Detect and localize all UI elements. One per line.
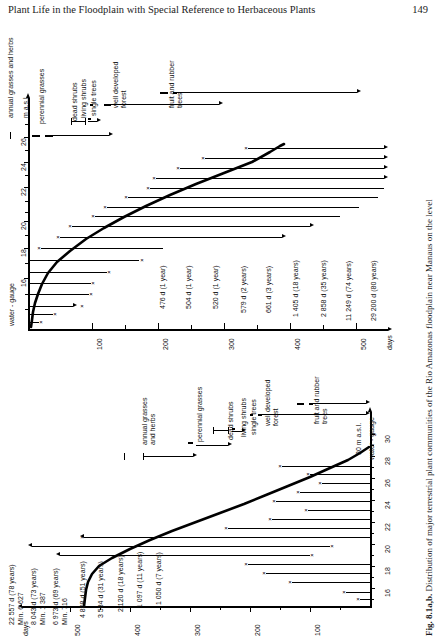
annotation-b-9: 1 097 d (11 years) xyxy=(136,552,143,608)
page-number: 149 xyxy=(412,4,428,15)
annotation-b-8: 2 120 d (18 years) xyxy=(117,555,124,612)
chart-panel-b: annual grasses and herbs perennial grass… xyxy=(0,350,410,641)
figure-caption-number: Fig. 8.1a,b. xyxy=(424,594,434,636)
annotation-b-2: 8 043 d (73 years) xyxy=(30,568,37,625)
annotation-a-8: 29 200 d (80 years) xyxy=(370,260,377,321)
running-head: Plant Life in the Floodplain with Specia… xyxy=(8,4,428,15)
annotation-b-4: 6 973 d (69 years) xyxy=(52,568,59,625)
annotation-b-0: 22 557 d (78 years) xyxy=(8,564,15,625)
annotation-b-1: Min. 6 627 xyxy=(17,592,24,625)
figure-caption-text: Distribution of major terrestrial plant … xyxy=(424,199,434,591)
figure-caption: Fig. 8.1a,b. Distribution of major terre… xyxy=(424,199,434,636)
annotation-b-5: Min. 716 xyxy=(61,598,68,625)
duration-curve-a xyxy=(0,26,400,346)
running-head-title: Plant Life in the Floodplain with Specia… xyxy=(8,4,315,15)
annotation-a-7: 11 249 d (74 years) xyxy=(345,261,352,321)
annotation-b-6: 4 808 d (51 years) xyxy=(79,561,86,618)
annotation-b-7: 3 584 d (31 years) xyxy=(97,561,104,618)
annotation-a-0: 476 d (1 year) xyxy=(159,265,166,309)
page: Plant Life in the Floodplain with Specia… xyxy=(0,0,438,641)
annotation-a-1: 504 d (1 year) xyxy=(185,265,192,309)
chart-panel-a: annual grasses and herbs m a.s.l. perenn… xyxy=(0,26,400,326)
annotation-b-3: Min. 1 387 xyxy=(39,592,46,625)
annotation-a-5: 1 405 d (18 years) xyxy=(292,260,299,317)
annotation-a-4: 661 d (3 years) xyxy=(265,266,272,313)
annotation-a-2: 520 d (1 year) xyxy=(212,265,219,309)
annotation-a-3: 579 d (2 years) xyxy=(240,266,247,313)
annotation-a-6: 2 858 d (35 years) xyxy=(320,260,327,317)
annotation-b-10: 1 050 d (7 years) xyxy=(155,552,162,605)
